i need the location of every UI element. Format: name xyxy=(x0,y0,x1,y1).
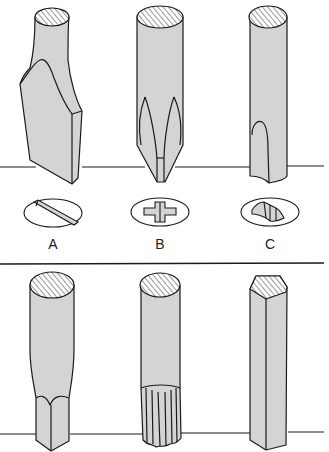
label-b: B xyxy=(150,236,170,252)
screw-head-cross-icon xyxy=(131,198,189,226)
phillips-tip-illustration xyxy=(137,6,183,182)
label-a: A xyxy=(43,236,63,252)
screw-head-bowtie-icon xyxy=(241,198,299,226)
hex-tip-illustration xyxy=(250,276,287,450)
row-separator xyxy=(0,263,324,264)
slotted-tip-illustration xyxy=(20,8,82,184)
label-c: C xyxy=(260,236,280,252)
screwdriver-tips-diagram: A B C xyxy=(0,0,329,452)
clutch-tip-illustration xyxy=(249,6,287,183)
torx-tip-illustration xyxy=(140,273,181,447)
screw-head-slot-icon xyxy=(24,199,82,227)
square-tip-illustration xyxy=(30,272,74,451)
